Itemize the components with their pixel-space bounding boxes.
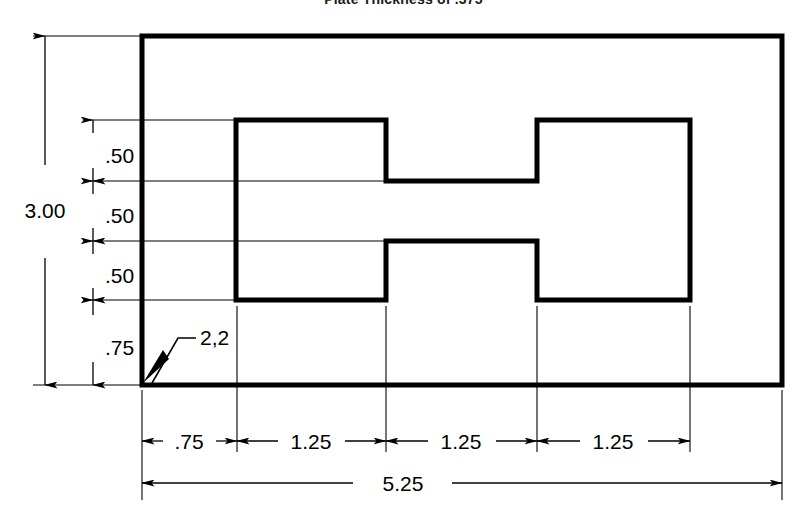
vertical-dimension-chain: .50 .50 .50 .75 (93, 120, 134, 385)
dimension-horizontal-1: .75 (174, 430, 203, 453)
technical-drawing: Plate Thickness of .375 (0, 0, 807, 516)
dimension-vertical-3: .50 (105, 264, 134, 287)
dimension-horizontal-2: 1.25 (291, 430, 332, 453)
dimension-overall-width: 5.25 (383, 472, 424, 495)
dimension-vertical-2: .50 (105, 204, 134, 227)
overall-height-dimension: 3.00 (25, 36, 66, 385)
plate-drawing-canvas: 3.00 .50 .50 .50 .75 2,2 (0, 0, 807, 516)
dimension-horizontal-3: 1.25 (441, 430, 482, 453)
horizontal-dimension-chain: .75 1.25 1.25 1.25 (142, 430, 690, 453)
dimension-horizontal-4: 1.25 (593, 430, 634, 453)
overall-width-dimension: 5.25 (142, 472, 782, 495)
corner-coordinate-label: 2,2 (200, 326, 229, 349)
inner-cutout-outline (236, 120, 690, 300)
dimension-vertical-1: .50 (105, 144, 134, 167)
bottom-extension-lines (142, 306, 782, 500)
corner-origin-callout: 2,2 (143, 326, 229, 383)
leader-arrowhead (143, 350, 169, 383)
part-geometry (142, 36, 782, 385)
dimension-vertical-4: .75 (105, 336, 134, 359)
dimension-overall-height: 3.00 (25, 199, 66, 222)
